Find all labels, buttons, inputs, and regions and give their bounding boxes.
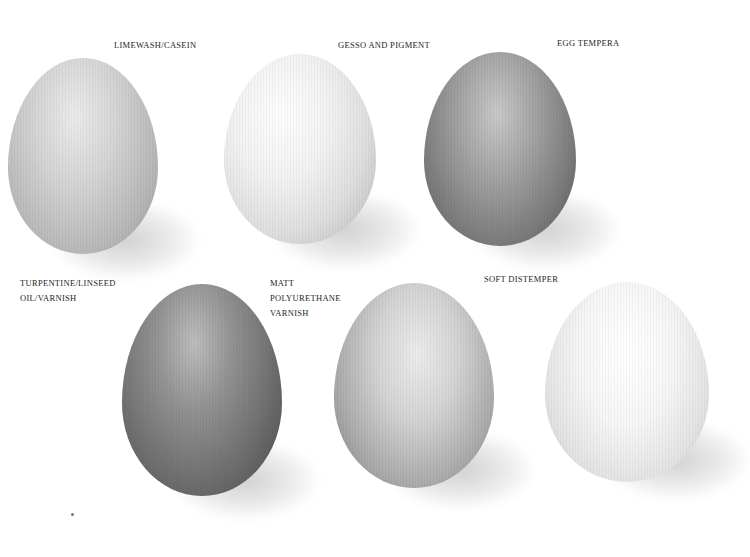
label-limewash-casein: LIMEWASH/CASEIN — [114, 38, 196, 53]
egg-matt-polyurethane-varnish — [334, 283, 494, 488]
label-line: TURPENTINE/LINSEED — [20, 276, 116, 291]
egg-soft-distemper — [545, 282, 709, 482]
egg-egg-tempera — [424, 52, 576, 246]
egg-gesso-and-pigment — [224, 54, 376, 244]
label-gesso-and-pigment: GESSO AND PIGMENT — [338, 38, 430, 53]
egg-turpentine-linseed-oil-varnish — [122, 284, 282, 496]
egg-limewash-casein — [8, 58, 158, 254]
dust-speck — [71, 513, 74, 516]
label-egg-tempera: EGG TEMPERA — [557, 36, 619, 51]
label-turpentine-linseed-oil-varnish: TURPENTINE/LINSEED OIL/VARNISH — [20, 276, 116, 306]
label-line: OIL/VARNISH — [20, 291, 116, 306]
